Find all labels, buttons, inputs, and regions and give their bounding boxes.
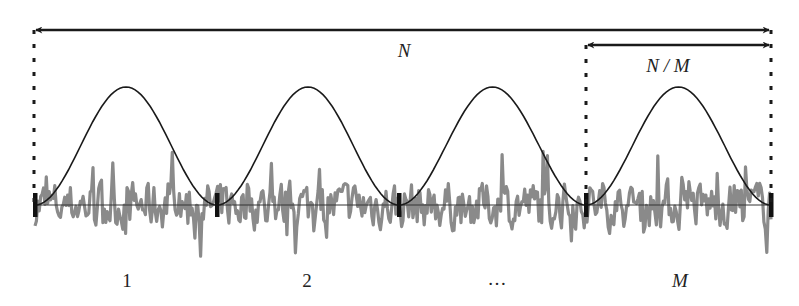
- segment-length-label: N / M: [645, 55, 690, 76]
- total-length-label: N: [397, 40, 412, 61]
- segment-label-M: M: [671, 270, 689, 291]
- hann-window-3: [399, 87, 586, 205]
- segment-boundary-marker: [584, 193, 589, 217]
- hann-window-4: [586, 87, 771, 205]
- segment-label-2: 2: [302, 270, 312, 291]
- segment-label-1: 1: [122, 270, 132, 291]
- segment-boundary-marker: [769, 193, 774, 217]
- segment-boundary-marker: [215, 193, 220, 217]
- segment-boundary-marker: [397, 193, 402, 217]
- segment-label-ellipsis: …: [488, 268, 507, 289]
- segmentation-diagram: N N / M 1 2 … M: [0, 0, 799, 306]
- segment-boundary-marker: [33, 193, 38, 217]
